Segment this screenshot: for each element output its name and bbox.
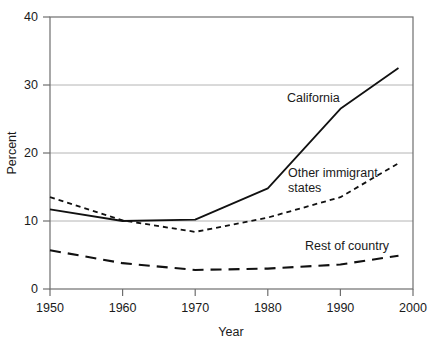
y-tick-label-40: 40 <box>24 10 38 24</box>
y-tick-label-10: 10 <box>24 214 38 228</box>
x-tick-labels: 1950 1960 1970 1980 1990 2000 <box>36 301 427 315</box>
y-tick-label-0: 0 <box>31 282 38 296</box>
gridlines <box>50 85 413 221</box>
y-tickmarks <box>43 17 50 289</box>
series-label-other-immigrant-states-line1: Other immigrant <box>288 166 378 180</box>
series-label-california: California <box>287 91 340 105</box>
y-tick-labels: 40 30 20 10 0 <box>24 10 38 296</box>
y-tick-label-20: 20 <box>24 146 38 160</box>
x-tick-label-1970: 1970 <box>181 301 209 315</box>
x-tickmarks <box>50 289 413 296</box>
series-label-other-immigrant-states-line2: states <box>288 181 321 195</box>
x-axis-title: Year <box>218 325 243 339</box>
x-tick-label-1950: 1950 <box>36 301 64 315</box>
x-tick-label-1980: 1980 <box>254 301 282 315</box>
y-axis-title: Percent <box>5 131 19 175</box>
y-tick-label-30: 30 <box>24 78 38 92</box>
series-line-rest-of-country <box>50 250 398 270</box>
x-tick-label-2000: 2000 <box>399 301 427 315</box>
series-line-california <box>50 68 398 221</box>
chart-canvas: 40 30 20 10 0 1950 1960 1970 1980 1990 2… <box>0 0 436 355</box>
line-chart: 40 30 20 10 0 1950 1960 1970 1980 1990 2… <box>0 0 436 355</box>
x-tick-label-1960: 1960 <box>109 301 137 315</box>
x-tick-label-1990: 1990 <box>326 301 354 315</box>
series-label-rest-of-country: Rest of country <box>305 239 390 253</box>
